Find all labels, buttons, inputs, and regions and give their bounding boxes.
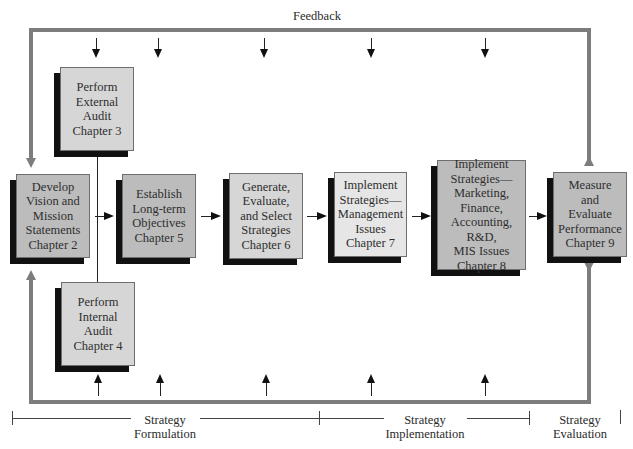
box-generate-strategies: Generate, Evaluate, and Select Strategie… <box>229 173 303 259</box>
establish-objectives-text: Establish Long-term Objectives Chapter 5 <box>132 187 185 245</box>
timeline-label-implementation: Strategy Implementation <box>375 413 475 441</box>
flow-arrow-right-icon <box>95 212 114 221</box>
feedback-loop-top <box>29 28 591 32</box>
box-implement-functional: Implement Strategies— Marketing, Finance… <box>437 160 526 270</box>
feedback-loop-left-lower <box>29 280 33 404</box>
timeline-label-formulation: Strategy Formulation <box>120 413 210 441</box>
feedback-up-arrow-icon <box>156 374 165 396</box>
box-measure-evaluate: Measure and Evaluate Performance Chapter… <box>553 172 627 257</box>
feedback-label: Feedback <box>287 9 347 23</box>
feedback-loop-right-upper <box>587 28 591 160</box>
feedback-up-arrow-icon <box>262 374 271 396</box>
feedback-loop-bottom <box>29 400 591 404</box>
feedback-up-arrow-icon <box>367 374 376 396</box>
box-external-audit: Perform External Audit Chapter 3 <box>60 67 134 151</box>
timeline-line-implementation-right <box>467 418 530 419</box>
feedback-down-arrow-icon <box>260 38 269 58</box>
develop-vision-text: Develop Vision and Mission Statements Ch… <box>26 180 81 253</box>
generate-strategies-text: Generate, Evaluate, and Select Strategie… <box>240 180 292 253</box>
feedback-down-arrow-icon <box>92 38 101 58</box>
timeline-tick-implementation-end <box>529 411 530 425</box>
feedback-arrow-up-icon <box>26 270 36 280</box>
implement-management-text: Implement Strategies— Management Issues … <box>338 178 403 251</box>
box-establish-objectives: Establish Long-term Objectives Chapter 5 <box>122 174 196 258</box>
implement-functional-text: Implement Strategies— Marketing, Finance… <box>440 157 523 273</box>
flow-arrow-right-icon <box>307 212 327 221</box>
feedback-loop-right-lower <box>587 262 591 404</box>
measure-evaluate-text: Measure and Evaluate Performance Chapter… <box>558 178 622 251</box>
external-audit-text: Perform External Audit Chapter 3 <box>73 80 122 138</box>
measure-up-arrow-icon <box>584 156 594 166</box>
timeline-tick-end <box>620 410 621 424</box>
box-develop-vision: Develop Vision and Mission Statements Ch… <box>16 174 90 258</box>
feedback-down-arrow-icon <box>481 38 490 58</box>
measure-down-arrow-icon <box>584 262 594 272</box>
feedback-up-arrow-icon <box>94 374 103 396</box>
flow-arrow-right-icon <box>412 212 431 221</box>
feedback-down-arrow-icon <box>154 38 163 58</box>
box-implement-management: Implement Strategies— Management Issues … <box>334 172 407 257</box>
feedback-up-arrow-icon <box>481 374 490 396</box>
feedback-loop-left-upper <box>29 28 33 158</box>
box-internal-audit: Perform Internal Audit Chapter 4 <box>61 282 135 366</box>
timeline-line-formulation-left <box>12 418 131 419</box>
feedback-arrow-down-icon <box>26 158 36 168</box>
internal-audit-text: Perform Internal Audit Chapter 4 <box>74 295 123 353</box>
flow-arrow-right-icon <box>201 212 221 221</box>
timeline-label-evaluation: Strategy Evaluation <box>545 413 615 441</box>
feedback-down-arrow-icon <box>367 38 376 58</box>
flow-arrow-right-icon <box>529 212 547 221</box>
timeline-line-formulation-right <box>200 418 319 419</box>
